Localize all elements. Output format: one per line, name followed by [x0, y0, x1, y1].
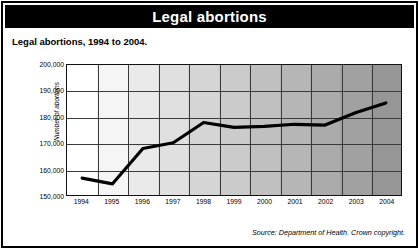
chart-container: Number of abortions 150,000160,000170,00… — [8, 56, 411, 242]
y-tick-label: 150,000 — [18, 193, 64, 200]
x-tick-label: 1997 — [158, 198, 189, 212]
x-tick-label: 1999 — [219, 198, 250, 212]
x-tick-label: 2002 — [310, 198, 341, 212]
y-tick-label: 200,000 — [18, 61, 64, 68]
y-axis-ticks: 150,000160,000170,000180,000190,000200,0… — [16, 64, 64, 196]
y-tick-label: 160,000 — [18, 166, 64, 173]
x-tick-label: 2003 — [341, 198, 372, 212]
source-note: Source: Department of Health. Crown copy… — [252, 228, 405, 237]
y-tick-label: 180,000 — [18, 113, 64, 120]
chart-subtitle: Legal abortions, 1994 to 2004. — [12, 36, 147, 47]
x-tick-label: 2000 — [249, 198, 280, 212]
screenshot-root: Legal abortions Legal abortions, 1994 to… — [0, 0, 419, 249]
plot-area — [66, 64, 402, 196]
x-axis-ticks: 1994199519961997199819992000200120022003… — [66, 198, 402, 212]
x-tick-label: 2004 — [371, 198, 402, 212]
x-tick-label: 1994 — [66, 198, 97, 212]
y-tick-label: 190,000 — [18, 87, 64, 94]
x-tick-label: 1995 — [97, 198, 128, 212]
x-tick-label: 2001 — [280, 198, 311, 212]
x-tick-label: 1996 — [127, 198, 158, 212]
page-title: Legal abortions — [152, 9, 267, 24]
y-tick-label: 170,000 — [18, 140, 64, 147]
x-tick-label: 1998 — [188, 198, 219, 212]
figure-title-bar: Legal abortions — [5, 5, 414, 28]
series-line-abortions — [67, 65, 401, 195]
